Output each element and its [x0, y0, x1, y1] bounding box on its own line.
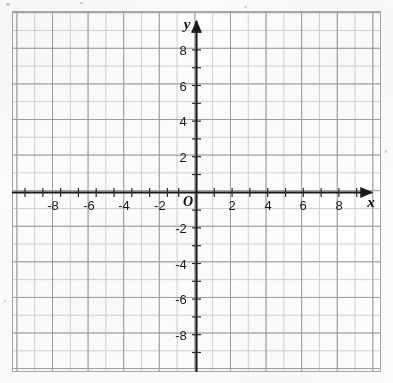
x-tick-label: -4 — [118, 199, 130, 212]
x-tick-label: 8 — [335, 199, 342, 212]
scan-speck — [6, 3, 10, 6]
graph-grid — [12, 11, 381, 372]
scan-speck — [80, 2, 83, 4]
coordinate-plane-figure: -8 -6 -4 -2 2 4 6 8 8 6 4 2 -2 -4 -6 -8 … — [0, 0, 393, 383]
scan-speck — [244, 6, 247, 8]
x-tick-label: -8 — [47, 199, 59, 212]
y-tick-label: 2 — [179, 151, 186, 164]
y-axis-label: y — [184, 17, 191, 32]
x-tick-label: -2 — [154, 199, 166, 212]
x-axis-label: x — [367, 195, 375, 210]
scan-speck — [385, 150, 387, 153]
y-tick-label: -6 — [175, 293, 187, 306]
origin-label: O — [183, 195, 193, 209]
x-tick-label: -6 — [83, 199, 95, 212]
scan-speck — [4, 300, 6, 302]
x-tick-label: 2 — [228, 199, 235, 212]
y-tick-label: -8 — [175, 329, 187, 342]
y-tick-label: -2 — [175, 222, 187, 235]
x-tick-label: 4 — [264, 199, 271, 212]
y-tick-label: 6 — [179, 80, 186, 93]
x-tick-label: 6 — [299, 199, 306, 212]
y-tick-label: 8 — [179, 44, 186, 57]
y-tick-label: -4 — [175, 258, 187, 271]
y-tick-label: 4 — [179, 115, 186, 128]
